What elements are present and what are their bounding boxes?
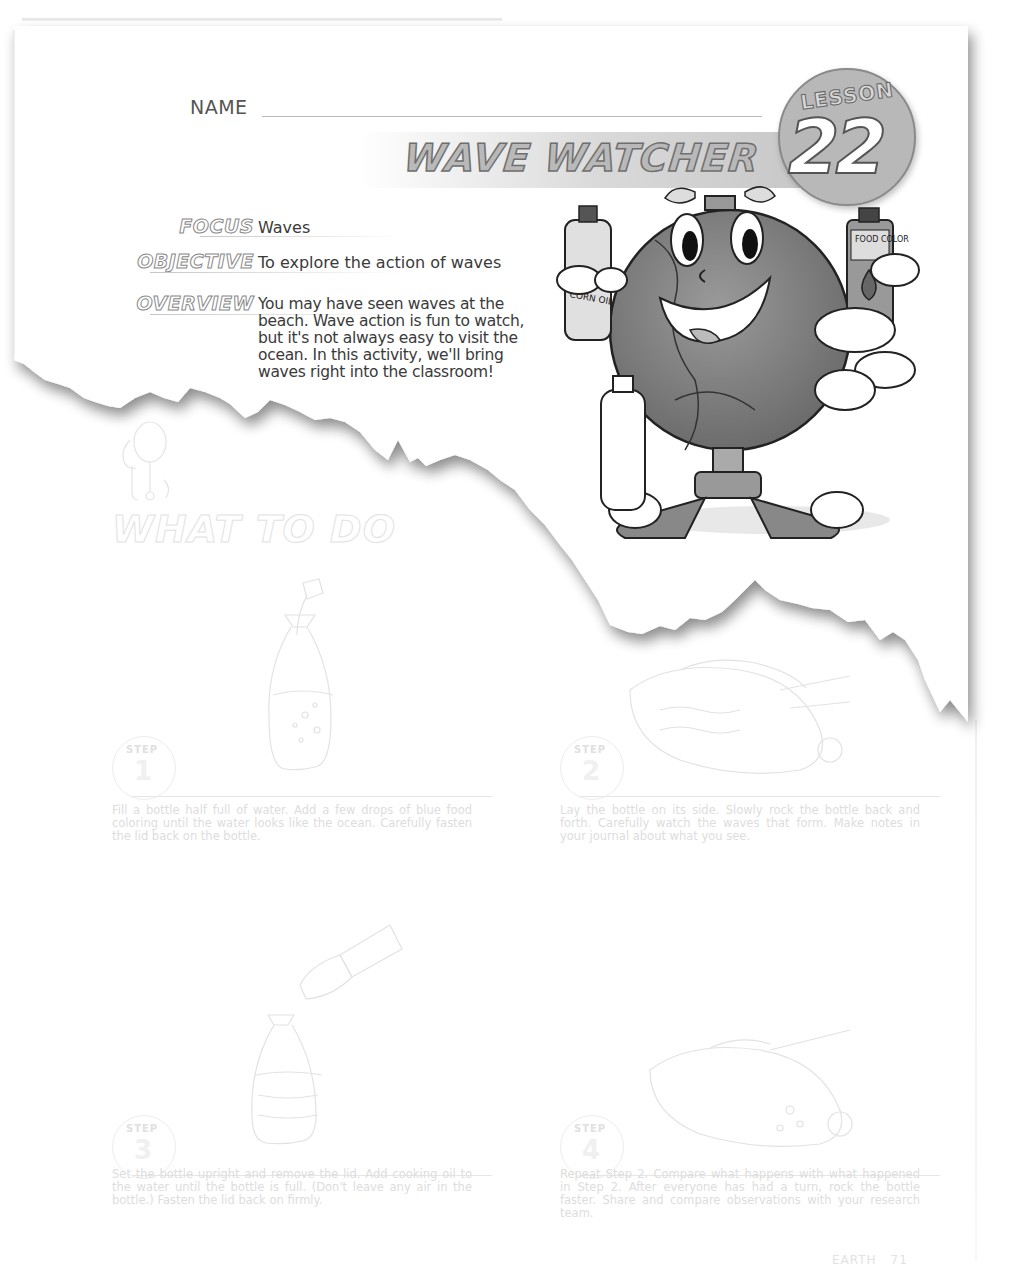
worksheet-title: WAVE WATCHER <box>402 136 762 180</box>
name-label: NAME <box>190 96 248 118</box>
name-input-line[interactable] <box>262 116 762 117</box>
overview-text: You may have seen waves at the beach. Wa… <box>258 296 538 381</box>
focus-value: Waves <box>258 218 310 237</box>
objective-value: To explore the action of waves <box>258 253 501 272</box>
objective-rule <box>150 272 400 273</box>
food-color-label: FOOD COLOR <box>855 235 909 244</box>
globe-mascot-illustration: CORN OIL FOOD COLOR <box>555 180 925 540</box>
focus-label: FOCUS <box>170 215 254 237</box>
objective-label: OBJECTIVE <box>120 250 254 272</box>
lesson-number: 22 <box>788 104 883 190</box>
overview-label: OVERVIEW <box>120 292 254 314</box>
